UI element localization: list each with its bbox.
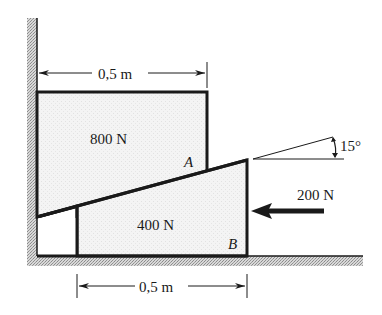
force-label: 200 N	[297, 187, 334, 203]
angle-label: 15°	[340, 138, 361, 154]
wedge-weight-label: 400 N	[137, 217, 174, 233]
upper-block-weight-label: 800 N	[90, 131, 127, 147]
point-a-label: A	[183, 154, 194, 170]
gap-region	[38, 218, 76, 255]
force-arrow	[251, 203, 324, 219]
top-dimension-label: 0,5 m	[98, 66, 133, 82]
point-b-label: B	[228, 236, 237, 252]
wedge-diagram: 800 N A 400 N B 15° 200 N 0,5 m 0,5 m	[0, 0, 382, 315]
bottom-dimension-label: 0,5 m	[139, 279, 174, 295]
angle-indicator	[253, 137, 344, 159]
